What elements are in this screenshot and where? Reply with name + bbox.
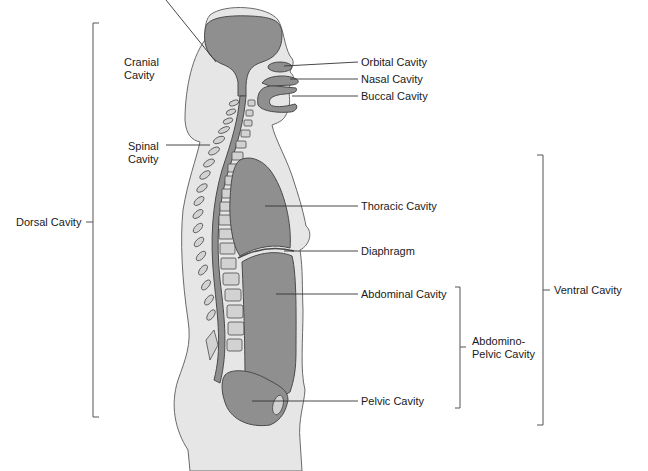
label-abdomino-line2: Pelvic Cavity bbox=[472, 348, 535, 361]
label-cranial-line2: Cavity bbox=[124, 69, 159, 82]
label-dorsal-cavity: Dorsal Cavity bbox=[16, 216, 81, 229]
dorsal-bracket bbox=[86, 23, 99, 417]
label-diaphragm: Diaphragm bbox=[361, 245, 415, 258]
label-orbital-cavity: Orbital Cavity bbox=[361, 56, 427, 69]
orbital-cavity-shape bbox=[268, 62, 292, 72]
label-cranial-cavity: Cranial Cavity bbox=[124, 56, 159, 81]
label-ventral-cavity: Ventral Cavity bbox=[554, 284, 622, 297]
abdomino-pelvic-bracket bbox=[455, 287, 466, 408]
label-buccal-cavity: Buccal Cavity bbox=[361, 90, 428, 103]
label-cranial-line1: Cranial bbox=[124, 56, 159, 69]
label-abdominal-cavity: Abdominal Cavity bbox=[361, 288, 447, 301]
label-pelvic-cavity: Pelvic Cavity bbox=[361, 395, 424, 408]
label-abdomino-pelvic-cavity: Abdomino- Pelvic Cavity bbox=[472, 335, 535, 360]
label-nasal-cavity: Nasal Cavity bbox=[361, 73, 423, 86]
label-spinal-cavity: Spinal Cavity bbox=[128, 140, 159, 165]
label-spinal-line2: Cavity bbox=[128, 153, 159, 166]
label-abdomino-line1: Abdomino- bbox=[472, 335, 535, 348]
ventral-bracket bbox=[537, 155, 550, 425]
label-thoracic-cavity: Thoracic Cavity bbox=[361, 200, 437, 213]
leader-orbital bbox=[284, 62, 358, 66]
label-spinal-line1: Spinal bbox=[128, 140, 159, 153]
body-cavities-diagram bbox=[0, 0, 648, 471]
